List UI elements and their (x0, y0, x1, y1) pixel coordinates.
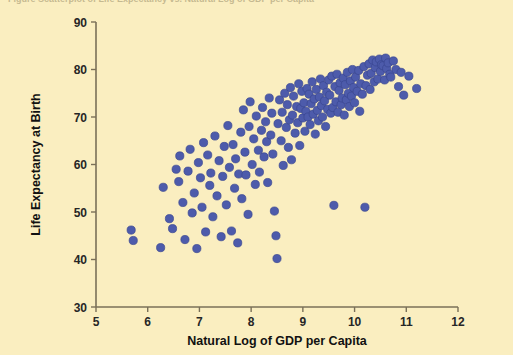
data-point (311, 130, 319, 138)
data-point (176, 152, 184, 160)
data-point (267, 131, 275, 139)
data-point (127, 226, 135, 234)
data-point (366, 85, 374, 93)
data-point (330, 201, 338, 209)
data-point (204, 151, 212, 159)
data-point (274, 120, 282, 128)
data-point (400, 91, 408, 99)
data-point (270, 207, 278, 215)
data-point (217, 233, 225, 241)
data-point (215, 157, 223, 165)
data-point (277, 137, 285, 145)
scatter-plot: 30405060708090 56789101112 Natural Log o… (0, 0, 513, 355)
data-point (268, 109, 276, 117)
y-tick-label: 50 (74, 206, 88, 220)
data-point (159, 183, 167, 191)
data-point (322, 122, 330, 130)
axes-layer: 30405060708090 56789101112 (74, 16, 465, 330)
data-point (184, 167, 192, 175)
data-point (250, 135, 258, 143)
data-point (255, 168, 263, 176)
y-tick-label: 30 (74, 301, 88, 315)
x-tick-label: 12 (451, 315, 465, 329)
x-axis-ticks: 56789101112 (93, 307, 465, 329)
data-point (248, 160, 256, 168)
y-tick-label: 70 (74, 111, 88, 125)
data-point (389, 57, 397, 65)
data-point (279, 161, 287, 169)
data-point (224, 121, 232, 129)
data-point (229, 140, 237, 148)
x-tick-label: 7 (196, 315, 203, 329)
data-point (264, 178, 272, 186)
data-point (254, 146, 262, 154)
data-point (258, 103, 266, 111)
data-point (129, 236, 137, 244)
data-point (219, 172, 227, 180)
data-point (358, 90, 366, 98)
data-point (318, 113, 326, 121)
data-point (397, 68, 405, 76)
data-point (251, 180, 259, 188)
data-point (269, 150, 277, 158)
data-point (257, 126, 265, 134)
x-tick-label: 9 (300, 315, 307, 329)
data-point (241, 148, 249, 156)
data-point (190, 189, 198, 197)
data-point (260, 153, 268, 161)
data-point (175, 178, 183, 186)
data-point (287, 156, 295, 164)
data-point (394, 83, 402, 91)
data-point (227, 227, 235, 235)
y-tick-label: 90 (74, 16, 88, 30)
data-point (234, 239, 242, 247)
y-tick-label: 40 (74, 253, 88, 267)
data-point (239, 106, 247, 114)
x-tick-label: 11 (400, 315, 413, 329)
data-point (194, 159, 202, 167)
data-point (272, 232, 280, 240)
data-point (340, 111, 348, 119)
data-point (326, 91, 334, 99)
data-point (202, 228, 210, 236)
data-point (356, 107, 364, 115)
data-point (286, 83, 294, 91)
data-point (165, 215, 173, 223)
data-point (198, 203, 206, 211)
data-point (186, 145, 194, 153)
x-axis-title: Natural Log of GDP per Capita (187, 334, 368, 348)
data-point (405, 72, 413, 80)
data-point (252, 112, 260, 120)
data-point (361, 203, 369, 211)
data-point (413, 84, 421, 92)
data-point (296, 141, 304, 149)
data-point (207, 169, 215, 177)
data-point (188, 209, 196, 217)
x-tick-label: 5 (93, 315, 100, 329)
data-point (265, 94, 273, 102)
data-point (237, 128, 245, 136)
data-point (225, 163, 233, 171)
data-point (245, 122, 253, 130)
data-point (242, 171, 250, 179)
data-point (235, 170, 243, 178)
figure-container: Figure Scatterplot of Life Expectancy vs… (0, 0, 513, 355)
data-point (206, 181, 214, 189)
data-point (232, 155, 240, 163)
data-point (213, 192, 221, 200)
data-point (179, 198, 187, 206)
data-point (196, 174, 204, 182)
data-point (157, 244, 165, 252)
y-tick-label: 60 (74, 158, 88, 172)
data-point (283, 101, 291, 109)
y-tick-label: 80 (74, 63, 88, 77)
data-point (199, 139, 207, 147)
data-point (209, 213, 217, 221)
data-point (222, 201, 230, 209)
data-point (211, 132, 219, 140)
data-point (230, 184, 238, 192)
data-point (291, 129, 299, 137)
data-point (181, 235, 189, 243)
data-point (168, 225, 176, 233)
data-point (278, 108, 286, 116)
